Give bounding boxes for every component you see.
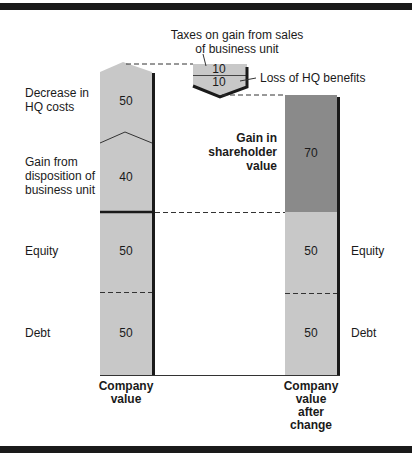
label-gain-shareholder: Gain in shareholder value xyxy=(195,131,277,173)
value-right-equity: 50 xyxy=(285,244,337,258)
value-left-debt: 50 xyxy=(100,326,152,340)
label-debt-left: Debt xyxy=(25,326,50,340)
label-decrease-hq: Decrease in HQ costs xyxy=(25,86,89,114)
value-right-debt: 50 xyxy=(285,326,337,340)
caption-company-value: Company value xyxy=(90,380,162,406)
label-loss-hq: Loss of HQ benefits xyxy=(260,71,365,85)
value-left-decrease-hq: 50 xyxy=(100,94,152,108)
label-debt-right: Debt xyxy=(351,326,376,340)
label-gain-disposition: Gain from disposition of business unit xyxy=(25,155,95,197)
caption-company-value-after: Company value after change xyxy=(275,380,347,432)
label-taxes: Taxes on gain from sales of business uni… xyxy=(162,28,312,56)
label-equity-right: Equity xyxy=(351,244,384,258)
value-right-gain: 70 xyxy=(285,146,337,160)
value-loss-hq: 10 xyxy=(193,76,245,88)
value-left-equity: 50 xyxy=(100,244,152,258)
value-left-gain-disp: 40 xyxy=(100,170,152,184)
label-equity-left: Equity xyxy=(25,244,58,258)
value-taxes: 10 xyxy=(193,63,245,75)
